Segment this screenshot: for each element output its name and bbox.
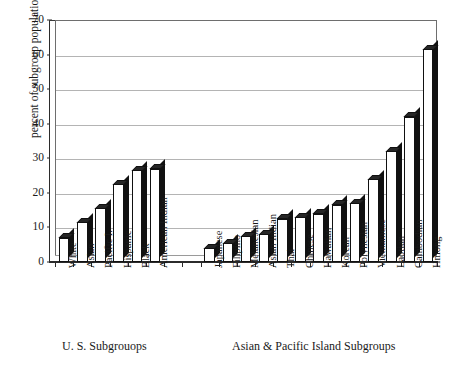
x-tick-label: Hawaiian <box>323 228 334 268</box>
y-axis: 010203040506070 <box>0 0 52 300</box>
x-tick-label: Vietnamese <box>377 219 388 268</box>
x-tick-label: Hispanic <box>123 231 134 268</box>
x-tick-label: Filipino <box>232 235 243 268</box>
x-tick-label: Hmong <box>432 237 443 269</box>
x-tick-label: Laotian <box>396 236 407 268</box>
x-tick-label: Korean <box>341 237 352 268</box>
x-tick-label: White <box>68 242 79 268</box>
x-tick-label: Asian <box>86 244 97 269</box>
y-tick-label: 60 <box>33 49 45 61</box>
x-tick-mark <box>55 262 56 267</box>
x-tick-label: Chinese <box>305 234 316 268</box>
bar-side-face <box>433 40 438 257</box>
x-tick-label: Melanesian <box>250 220 261 268</box>
x-tick-label: Black <box>141 244 152 269</box>
x-tick-label: Asian Indian <box>268 214 279 268</box>
x-tick-label: Cambodian <box>414 220 425 268</box>
x-tick-label: Thai <box>286 249 297 268</box>
y-tick-label: 10 <box>33 222 45 234</box>
x-tick-label: American Indian <box>159 197 170 268</box>
bar-chart: percent of subgroup population 010203040… <box>0 0 455 369</box>
x-tick-mark <box>201 262 202 267</box>
x-tick-label: Japanese <box>214 231 225 268</box>
x-axis-labels: WhiteAsianPacific I.HispanicBlackAmerica… <box>55 268 437 343</box>
x-tick-mark <box>182 262 183 267</box>
y-tick-label: 30 <box>33 153 45 165</box>
y-tick-label: 70 <box>33 14 45 26</box>
y-tick-label: 50 <box>33 83 45 95</box>
group-caption-asian-pacific-subgroups: Asian & Pacific Island Subgroups <box>232 339 395 354</box>
group-caption-us-subgroups: U. S. Subgrouops <box>62 339 147 354</box>
x-tick-label: Polynesian <box>359 222 370 268</box>
x-tick-label: Pacific I. <box>104 230 115 268</box>
y-tick-label: 0 <box>38 256 44 268</box>
y-tick-label: 20 <box>33 187 45 199</box>
y-tick-label: 40 <box>33 118 45 130</box>
